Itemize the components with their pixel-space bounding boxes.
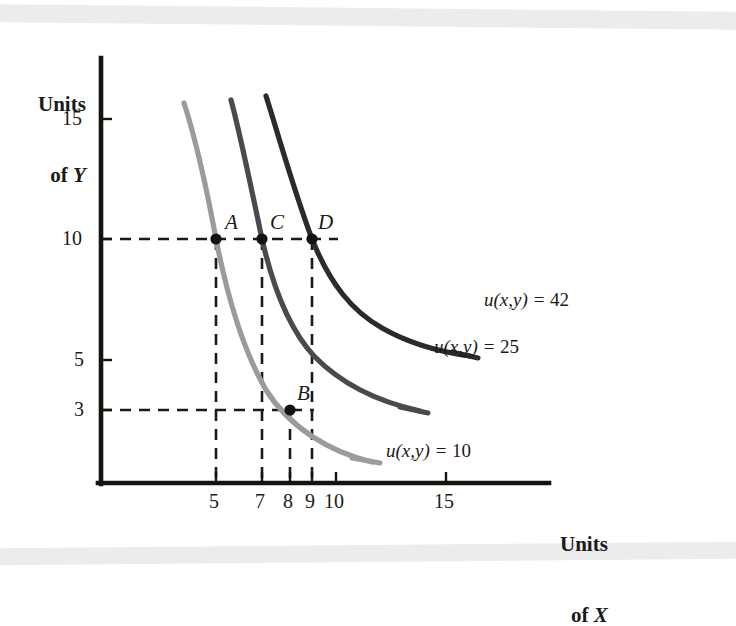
y-tick-label-3: 3 bbox=[74, 398, 84, 421]
curve-u25 bbox=[231, 100, 420, 411]
guide-lines bbox=[101, 239, 338, 480]
x-tick-label-15: 15 bbox=[434, 490, 454, 513]
curve-label-u10-value: 10 bbox=[452, 440, 471, 461]
x-tick-label-8: 8 bbox=[283, 490, 293, 513]
point-label-b: B bbox=[297, 381, 310, 406]
y-axis-title-var: Y bbox=[73, 163, 86, 187]
curve-u42 bbox=[266, 96, 470, 356]
curve-label-u42-value: 42 bbox=[550, 289, 569, 310]
y-tick-label-15: 15 bbox=[62, 107, 82, 130]
y-axis-title-line2: of Y bbox=[38, 164, 86, 188]
y-axis-title: Units of Y bbox=[38, 46, 86, 234]
curve-label-u42-prefix: u(x,y) = bbox=[484, 289, 550, 310]
curve-label-u25-value: 25 bbox=[500, 336, 519, 357]
point-label-d: D bbox=[318, 210, 333, 235]
point-label-a: A bbox=[225, 210, 238, 235]
x-tick-label-5: 5 bbox=[209, 490, 219, 513]
point-marker-d bbox=[306, 233, 317, 244]
curve-label-u10-prefix: u(x,y) = bbox=[386, 440, 452, 461]
x-axis-title-of: of bbox=[571, 603, 594, 626]
curve-u10 bbox=[184, 103, 372, 462]
x-tick-label-10: 10 bbox=[324, 490, 344, 513]
point-marker-a bbox=[210, 233, 221, 244]
y-tick-label-10: 10 bbox=[62, 227, 82, 250]
x-axis-title-line2: of X bbox=[560, 604, 608, 626]
x-axis-title-var: X bbox=[594, 603, 608, 626]
y-tick-label-5: 5 bbox=[74, 348, 84, 371]
x-tick-label-9: 9 bbox=[305, 490, 315, 513]
leader-u25 bbox=[400, 407, 428, 413]
point-marker-c bbox=[256, 233, 267, 244]
leader-u10 bbox=[352, 458, 380, 463]
x-axis-title-line1: Units bbox=[560, 533, 608, 557]
axes bbox=[98, 58, 549, 484]
y-axis-title-of: of bbox=[50, 163, 73, 187]
point-label-c: C bbox=[270, 210, 284, 235]
x-tick-label-7: 7 bbox=[255, 490, 265, 513]
point-marker-b bbox=[284, 404, 295, 415]
curve-label-u25-prefix: u(x,y) = bbox=[434, 336, 500, 357]
curve-label-u25: u(x,y) = 25 bbox=[434, 336, 519, 358]
curve-label-u42: u(x,y) = 42 bbox=[484, 289, 569, 311]
curve-label-u10: u(x,y) = 10 bbox=[386, 440, 471, 462]
x-axis-title: Units of X bbox=[560, 486, 608, 626]
